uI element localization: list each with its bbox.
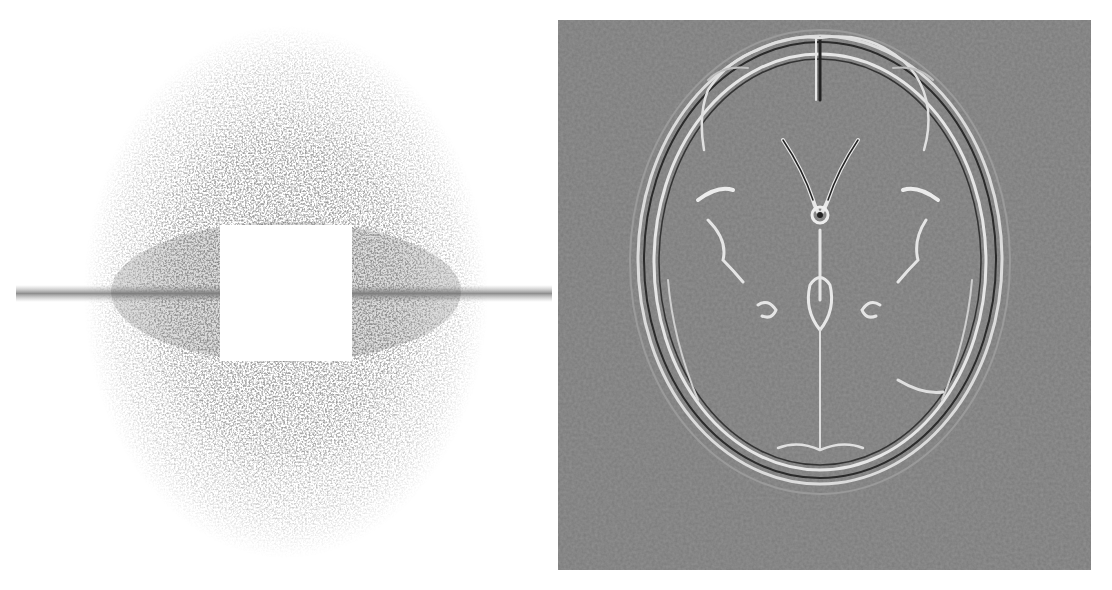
- brain-mri-image: [558, 20, 1091, 570]
- kspace-mask-panel: [0, 0, 556, 590]
- mri-reconstruction-panel: [558, 20, 1091, 570]
- center-square: [220, 225, 352, 361]
- kspace-mask-image: [0, 0, 556, 590]
